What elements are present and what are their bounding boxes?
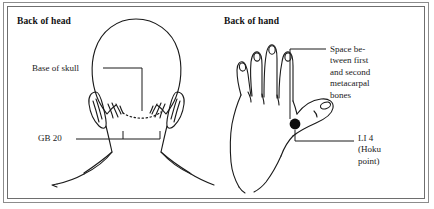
middle-finger-nail xyxy=(269,46,275,54)
trapezius-right xyxy=(161,152,190,173)
anatomy-figure: Back of head Back of hand Base of skull … xyxy=(0,0,434,209)
base-of-skull-leader xyxy=(103,68,142,111)
neck-left-outline xyxy=(84,126,112,174)
figure-artwork xyxy=(0,0,434,209)
thumb-interphalangeal-crease xyxy=(314,111,317,117)
label-li-4: LI 4 (Hoku point) xyxy=(358,133,418,167)
gb20-leader xyxy=(76,131,160,139)
li4-acupoint-marker xyxy=(290,119,301,130)
hand-ulnar-border xyxy=(230,95,241,187)
head-illustration xyxy=(52,19,214,187)
right-shoulder-outline xyxy=(191,174,214,185)
label-gb-20: GB 20 xyxy=(38,133,62,144)
middle-finger-outline xyxy=(264,45,277,98)
left-shoulder-outline xyxy=(57,174,84,184)
hairline-wisp-left-3 xyxy=(116,104,121,114)
thumb-nail xyxy=(320,101,332,111)
label-base-of-skull: Base of skull xyxy=(32,63,79,74)
thumb-web-crease xyxy=(281,136,293,156)
hand-illustration xyxy=(230,45,333,193)
left-shoulder-tip xyxy=(52,184,57,187)
ring-finger-nail xyxy=(254,53,261,62)
wrist-radial-border xyxy=(254,156,281,192)
li4-leader xyxy=(295,130,354,141)
cranium-outline xyxy=(92,19,181,114)
wrist-ulnar-border xyxy=(239,187,245,193)
trapezius-left xyxy=(84,152,112,173)
hand-radial-border xyxy=(293,101,297,114)
hairline-wisp-right-3 xyxy=(152,104,157,114)
panel-heading-back-of-hand: Back of hand xyxy=(224,16,279,26)
neck-right-outline xyxy=(161,126,191,174)
panel-heading-back-of-head: Back of head xyxy=(17,16,71,26)
label-space-between-metacarpals: Space be- tween first and second metacar… xyxy=(330,44,396,101)
thumb-outline xyxy=(293,99,333,136)
